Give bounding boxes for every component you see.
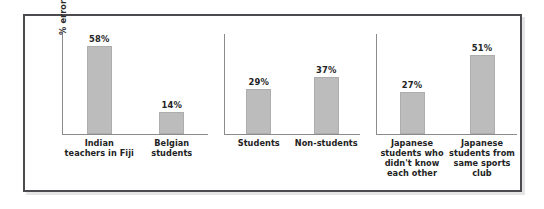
x-axis-line xyxy=(62,134,208,135)
category-label: Non-students xyxy=(293,138,361,148)
bar[interactable] xyxy=(246,89,271,134)
bar[interactable] xyxy=(470,55,495,134)
chart-panel-culture: 58% 14% Indian teachers in Fiji Belgian … xyxy=(62,34,208,176)
bar-value-label: 51% xyxy=(472,43,492,53)
bar-value-label: 29% xyxy=(249,77,269,87)
bar-value-label: 37% xyxy=(316,65,336,75)
bar-slot: 58% xyxy=(63,34,136,134)
category-label: Indian teachers in Fiji xyxy=(63,138,136,158)
chart-figure: % error on conformity trials 58% 14% Ind… xyxy=(0,0,544,209)
chart-panel-group-cohesion: 27% 51% Japanese students who didn't kno… xyxy=(376,34,517,176)
x-axis-line xyxy=(376,134,517,135)
plot-area: 29% 37% xyxy=(225,34,360,134)
bar-value-label: 27% xyxy=(402,80,422,90)
bar-slot: 14% xyxy=(136,34,209,134)
category-label: Japanese students from same sports club xyxy=(447,138,517,178)
bar-slot: 29% xyxy=(225,34,293,134)
plot-area: 27% 51% xyxy=(377,34,517,134)
bar-value-label: 14% xyxy=(162,100,182,110)
category-label: Japanese students who didn't know each o… xyxy=(377,138,447,178)
bar-slot: 27% xyxy=(377,34,447,134)
bar[interactable] xyxy=(400,92,425,134)
y-axis-label: % error on conformity trials xyxy=(57,0,79,38)
chart-panel-status: 29% 37% Students Non-students xyxy=(224,34,360,176)
chart-frame: % error on conformity trials 58% 14% Ind… xyxy=(23,14,522,192)
category-labels: Indian teachers in Fiji Belgian students xyxy=(63,138,208,158)
bar-slot: 37% xyxy=(293,34,361,134)
category-label: Students xyxy=(225,138,293,148)
category-labels: Japanese students who didn't know each o… xyxy=(377,138,517,178)
category-labels: Students Non-students xyxy=(225,138,360,148)
bar[interactable] xyxy=(314,77,339,134)
bar-value-label: 58% xyxy=(89,34,109,44)
bar[interactable] xyxy=(87,46,112,134)
bar-slot: 51% xyxy=(447,34,517,134)
plot-area: 58% 14% xyxy=(63,34,208,134)
category-label: Belgian students xyxy=(136,138,209,158)
bar[interactable] xyxy=(159,112,184,134)
x-axis-line xyxy=(224,134,360,135)
